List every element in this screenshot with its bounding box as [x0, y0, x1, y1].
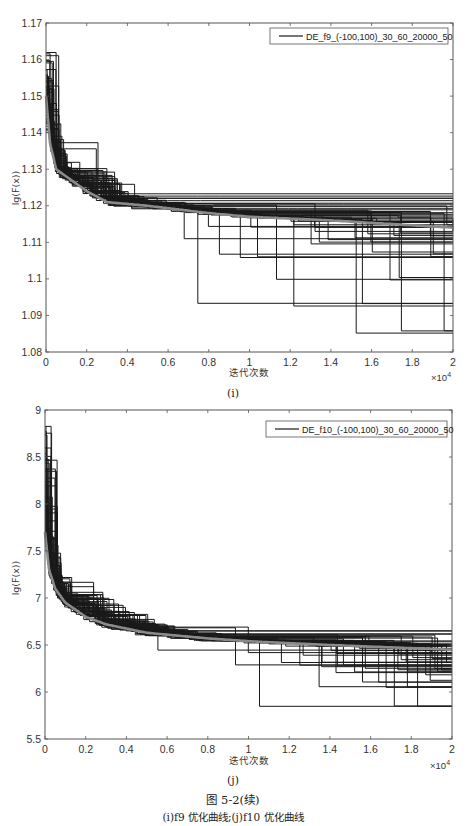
x-tick-label: 0.8: [200, 743, 215, 755]
x-tick-label: 0.4: [119, 743, 134, 755]
x-exponent-label: ×104: [430, 759, 450, 771]
x-tick-label: 1: [246, 743, 252, 755]
legend-label: DE_f10_(-100,100)_30_60_20000_50: [302, 425, 454, 435]
x-tick-label: 1.4: [323, 743, 338, 755]
x-tick-label: 0.6: [160, 743, 175, 755]
chart-j-axes-box: [45, 410, 452, 739]
x-tick-label: 0.2: [78, 743, 93, 755]
y-tick-label: 7.5: [26, 545, 41, 557]
y-tick-label: 8: [35, 498, 41, 510]
run-curve: [45, 516, 452, 659]
chart-j-canvas: 00.20.40.60.811.21.41.61.825.566.577.588…: [0, 0, 466, 790]
y-tick-label: 7: [35, 592, 41, 604]
y-tick-label: 6.5: [26, 639, 41, 651]
chart-j-legend: DE_f10_(-100,100)_30_60_20000_50: [266, 421, 454, 437]
y-tick-label: 8.5: [26, 451, 41, 463]
figure-title: 图 5-2(续): [0, 791, 466, 807]
chart-j-plot-area: [45, 426, 452, 706]
x-tick-label: 2: [449, 743, 455, 755]
x-tick-label: 1.6: [363, 743, 378, 755]
x-tick-label: 0: [42, 743, 48, 755]
x-tick-label: 1.2: [282, 743, 297, 755]
panel-j-sublabel: (j): [0, 774, 466, 787]
y-tick-label: 6: [35, 686, 41, 698]
chart-j-ticks: 00.20.40.60.811.21.41.61.825.566.577.588…: [26, 404, 455, 756]
run-curve: [45, 463, 452, 706]
run-curve: [45, 448, 452, 654]
run-curve: [45, 499, 452, 683]
x-axis-title: 迭代次数: [229, 755, 269, 766]
y-axis-title: lg(F(x)): [10, 561, 21, 596]
x-tick-label: 1.8: [404, 743, 419, 755]
y-tick-label: 9: [35, 404, 41, 416]
chart-panel-j: 00.20.40.60.811.21.41.61.825.566.577.588…: [0, 0, 466, 826]
y-tick-label: 5.5: [26, 733, 41, 745]
run-curve: [45, 488, 452, 707]
figure-note: (i)f9 优化曲线;(j)f10 优化曲线: [0, 809, 466, 824]
